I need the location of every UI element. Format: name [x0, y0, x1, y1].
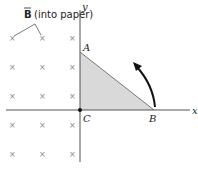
field-mark-x-icon: × [9, 63, 16, 72]
x-axis-label: x [192, 105, 198, 116]
field-mark-x-icon: × [69, 121, 76, 130]
field-mark-x-icon: × [69, 63, 76, 72]
field-mark-x-icon: × [39, 150, 46, 159]
point-C-label: C [83, 113, 91, 124]
diagram-canvas: B (into paper) ××××××××××××××× x y A C B [0, 0, 198, 170]
field-mark-x-icon: × [69, 150, 76, 159]
field-vector-symbol: B [24, 9, 32, 20]
field-mark-x-icon: × [39, 63, 46, 72]
field-mark-x-icon: × [9, 150, 16, 159]
y-axis-label: y [81, 1, 88, 12]
field-mark-x-icon: × [69, 34, 76, 43]
point-A-label: A [82, 42, 90, 53]
field-mark-x-icon: × [39, 34, 46, 43]
field-mark-x-icon: × [9, 34, 16, 43]
field-mark-x-icon: × [9, 121, 16, 130]
field-mark-x-icon: × [69, 92, 76, 101]
field-mark-x-icon: × [39, 121, 46, 130]
label-leader-lines [14, 24, 41, 36]
point-B-label: B [148, 113, 156, 124]
field-mark-x-icon: × [9, 92, 16, 101]
origin-dot [78, 108, 82, 112]
field-marks: ××××××××××××××× [9, 34, 76, 159]
field-mark-x-icon: × [39, 92, 46, 101]
